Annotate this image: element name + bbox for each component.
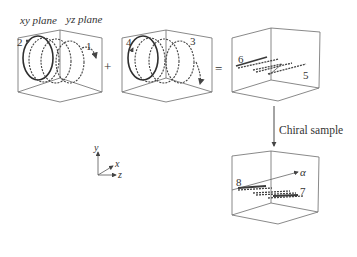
panel-4-rotated-result — [232, 151, 319, 224]
label-8: 8 — [236, 176, 242, 188]
chiral-sample-label: Chiral sample — [279, 124, 343, 137]
label-5: 5 — [303, 69, 309, 81]
plus-operator: + — [104, 59, 111, 74]
label-3: 3 — [190, 35, 196, 47]
label-1: 1 — [86, 40, 92, 52]
label-2: 2 — [17, 36, 23, 48]
z-axis-label: z — [117, 169, 122, 180]
y-axis-label: y — [93, 142, 99, 153]
polarization-diagram: xy plane yz plane 2 1 + 4 3 = 6 5 Chiral… — [0, 0, 357, 257]
x-axis-label: x — [114, 158, 120, 169]
label-6: 6 — [238, 53, 244, 65]
coordinate-axes — [98, 152, 116, 175]
panel-3-linear-result — [232, 28, 320, 101]
alpha-label: α — [300, 166, 306, 178]
label-4: 4 — [126, 36, 132, 48]
xy-plane-label: xy plane — [19, 14, 57, 26]
label-7: 7 — [300, 185, 306, 197]
equals-operator: = — [215, 61, 222, 76]
yz-plane-label: yz plane — [65, 13, 102, 25]
panel-2-circular-components — [122, 30, 212, 102]
